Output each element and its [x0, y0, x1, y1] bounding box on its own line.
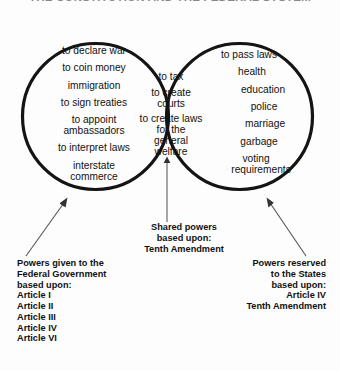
- caption-line: Article III: [17, 312, 167, 323]
- federal-powers-caption: Powers given to the Federal Government b…: [17, 258, 167, 344]
- list-item: commerce: [20, 172, 168, 183]
- caption-line: to the States: [196, 269, 326, 280]
- caption-line: Tenth Amendment: [121, 244, 247, 255]
- caption-line: Powers given to the: [17, 258, 167, 269]
- caption-line: Article VI: [17, 333, 167, 344]
- shared-powers-caption: Shared powers based upon: Tenth Amendmen…: [121, 222, 247, 254]
- caption-line: Article II: [17, 301, 167, 312]
- shared-powers-list: to tax to create courts to create laws f…: [140, 72, 202, 163]
- list-item: health: [196, 67, 308, 78]
- list-item: police: [212, 102, 316, 113]
- venn-diagram-figure: THE CONSTITUTION AND THE FEDERAL SYSTEM …: [0, 0, 340, 371]
- caption-line: Federal Government: [17, 269, 167, 280]
- caption-line: based upon:: [196, 280, 326, 291]
- list-item: to pass laws: [196, 50, 302, 61]
- list-item: welfare: [140, 147, 202, 158]
- caption-line: Tenth Amendment: [196, 301, 326, 312]
- federal-arrow: [26, 198, 68, 257]
- list-item: marriage: [214, 119, 316, 130]
- caption-line: based upon:: [121, 233, 247, 244]
- state-powers-list: to pass laws health education police mar…: [196, 50, 316, 182]
- list-item: requirements: [206, 165, 316, 176]
- list-item: education: [210, 85, 316, 96]
- caption-line: Article IV: [17, 323, 167, 334]
- states-arrow: [267, 198, 307, 257]
- list-item: garbage: [202, 137, 316, 148]
- caption-line: Shared powers: [121, 222, 247, 233]
- caption-line: Powers reserved: [196, 258, 326, 269]
- list-item: courts: [140, 99, 202, 110]
- caption-line: Article IV: [196, 290, 326, 301]
- caption-line: Article I: [17, 290, 167, 301]
- list-item: to create: [140, 88, 202, 99]
- list-item: to declare war: [20, 46, 168, 57]
- state-powers-caption: Powers reserved to the States based upon…: [196, 258, 326, 312]
- caption-line: based upon:: [17, 280, 167, 291]
- list-item: to tax: [140, 72, 202, 83]
